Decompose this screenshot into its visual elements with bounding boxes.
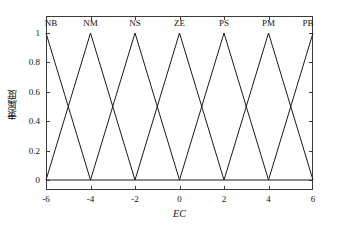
- x-tick-bottom-5: [269, 186, 270, 190]
- y-tick-label-4: 0.8: [29, 57, 40, 67]
- term-label-ps: PS: [219, 18, 229, 28]
- y-tick-right-2: [309, 121, 313, 122]
- y-tick-right-3: [309, 92, 313, 93]
- x-tick-bottom-4: [224, 186, 225, 190]
- figure-canvas: -6-4-2024600.20.40.60.81NBNMNSZEPSPMPB E…: [0, 0, 350, 235]
- y-tick-left-4: [46, 62, 50, 63]
- x-axis-title: EC: [46, 208, 313, 219]
- y-tick-left-2: [46, 121, 50, 122]
- y-tick-label-3: 0.6: [29, 87, 40, 97]
- x-tick-bottom-3: [180, 186, 181, 190]
- mf-curve-nm: [46, 33, 135, 180]
- y-tick-right-5: [309, 33, 313, 34]
- term-label-ns: NS: [129, 18, 141, 28]
- mf-curve-ps: [180, 33, 269, 180]
- x-tick-label-4: 2: [222, 194, 227, 204]
- y-axis-title: 隶属度: [6, 60, 20, 150]
- mf-curve-ns: [91, 33, 180, 180]
- mf-curve-ze: [135, 33, 224, 180]
- y-tick-left-5: [46, 33, 50, 34]
- y-tick-right-0: [309, 180, 313, 181]
- membership-functions-svg: [46, 33, 313, 180]
- y-tick-label-2: 0.4: [29, 116, 40, 126]
- term-label-pm: PM: [262, 18, 275, 28]
- y-tick-left-0: [46, 180, 50, 181]
- y-tick-left-3: [46, 92, 50, 93]
- y-tick-left-1: [46, 151, 50, 152]
- x-tick-bottom-1: [91, 186, 92, 190]
- plot-data-area: [46, 33, 313, 180]
- x-tick-label-0: -6: [42, 194, 50, 204]
- term-label-nm: NM: [83, 18, 98, 28]
- x-tick-label-5: 4: [266, 194, 271, 204]
- term-label-pb: PB: [302, 18, 313, 28]
- x-tick-label-3: 0: [177, 194, 182, 204]
- y-tick-label-5: 1: [36, 28, 41, 38]
- y-tick-label-0: 0: [36, 175, 41, 185]
- y-tick-right-4: [309, 62, 313, 63]
- y-tick-label-1: 0.2: [29, 146, 40, 156]
- x-tick-label-2: -2: [131, 194, 139, 204]
- x-tick-bottom-2: [135, 186, 136, 190]
- x-tick-label-1: -4: [87, 194, 95, 204]
- term-label-ze: ZE: [174, 18, 185, 28]
- y-tick-right-1: [309, 151, 313, 152]
- term-label-nb: NB: [45, 18, 58, 28]
- x-tick-label-6: 6: [311, 194, 316, 204]
- mf-curve-pm: [224, 33, 313, 180]
